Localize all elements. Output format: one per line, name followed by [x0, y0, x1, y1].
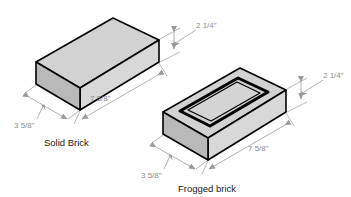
frogged-brick-height-label: 2 1/4" — [323, 71, 344, 80]
solid-brick-length-label: 7 5/8" — [90, 94, 111, 103]
frogged-brick-length-label: 7 5/8" — [248, 144, 269, 153]
solid-brick-caption: Solid Brick — [44, 137, 89, 148]
solid-brick-width-label: 3 5/8" — [14, 121, 35, 130]
solid-brick-height-label: 2 1/4" — [196, 21, 217, 30]
solid-brick-height-dimension: 2 1/4" — [160, 21, 217, 62]
frogged-brick-caption: Frogged brick — [178, 183, 236, 194]
frogged-brick-width-label: 3 5/8" — [141, 171, 162, 180]
brick-diagram-figure: 2 1/4" 7 5/8" 3 5/8" Solid Brick — [0, 0, 351, 197]
frogged-brick-height-dimension: 2 1/4" — [287, 71, 344, 112]
diagram-canvas: 2 1/4" 7 5/8" 3 5/8" Solid Brick — [0, 0, 351, 197]
